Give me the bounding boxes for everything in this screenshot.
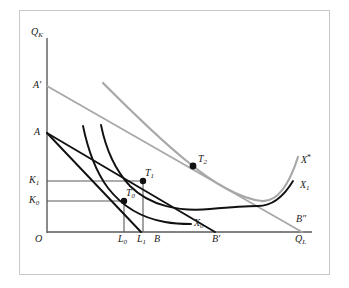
origin-label-text: O — [35, 233, 42, 244]
point-label-T0-sub: 0 — [132, 192, 136, 200]
point-label-T2: T2 — [198, 154, 207, 164]
point-label-T0: T0 — [126, 188, 135, 198]
axis-mark-L0-sub: 0 — [124, 238, 128, 246]
axis-mark-A: A — [34, 127, 40, 137]
axis-mark-K0: K0 — [29, 195, 39, 205]
x-axis-label-sub: L — [302, 238, 306, 246]
curve-label-X-star: X* — [301, 155, 311, 165]
isocost-line-A-prime-B-double-prime — [47, 86, 302, 232]
point-label-T1-sub: 1 — [151, 172, 155, 180]
isocost-line-AB-prime — [47, 133, 215, 232]
diagram-plot — [0, 0, 349, 288]
axis-mark-L1-text: L — [137, 233, 143, 244]
point-T0 — [121, 198, 127, 204]
axis-mark-B-prime: B′ — [212, 234, 220, 244]
point-label-T1: T1 — [145, 168, 154, 178]
x-axis-label: QL — [295, 234, 306, 244]
axis-mark-A-text: A — [34, 126, 40, 137]
axis-mark-B-double-prime: B″ — [296, 214, 306, 224]
axis-mark-L0: L0 — [118, 234, 127, 244]
axis-mark-K1: K1 — [29, 175, 39, 185]
axis-mark-L1-sub: 1 — [143, 238, 147, 246]
guide-K0-L0 — [47, 201, 124, 232]
origin-label: O — [35, 234, 42, 244]
curve-label-X-star-sup: * — [307, 153, 311, 162]
axis-mark-K1-sub: 1 — [36, 179, 40, 187]
axis-mark-K0-sub: 0 — [36, 199, 40, 207]
axis-mark-L0-text: L — [118, 233, 124, 244]
point-T2 — [190, 163, 197, 170]
axis-mark-B-double-prime-tick: ″ — [302, 213, 306, 224]
axis-mark-L1: L1 — [137, 234, 146, 244]
axis-mark-B: B — [154, 234, 160, 244]
axis-mark-K0-text: K — [29, 194, 36, 205]
point-label-T1-text: T — [145, 167, 151, 178]
figure-canvas: QK QL O A′ A K1 K0 L0 L1 B B′ B″ — [0, 0, 349, 288]
axis-mark-B-prime-tick: ′ — [218, 233, 220, 244]
y-axis-label: QK — [31, 27, 43, 37]
point-label-T2-sub: 2 — [204, 158, 208, 166]
axis-mark-K1-text: K — [29, 174, 36, 185]
point-label-T2-text: T — [198, 153, 204, 164]
curve-label-X1: X1 — [300, 180, 310, 190]
axis-mark-A-prime: A′ — [33, 80, 41, 90]
point-T1 — [140, 178, 146, 184]
axis-mark-A-prime-tick: ′ — [39, 79, 41, 90]
axis-mark-B-text: B — [154, 233, 160, 244]
point-label-T0-text: T — [126, 187, 132, 198]
curve-label-X0-sub: 0 — [200, 222, 204, 230]
curve-label-X0: X0 — [194, 218, 204, 228]
curve-label-X1-sub: 1 — [306, 184, 310, 192]
y-axis-label-sub: K — [38, 31, 43, 39]
